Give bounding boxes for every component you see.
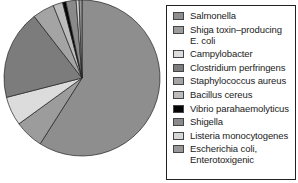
legend-swatch [173,132,184,140]
legend-swatch [173,77,184,85]
legend-item-campylobacter: Campylobacter [173,48,295,59]
legend-label: Listeria monocytogenes [190,130,288,141]
legend-label: Shiga toxin–producingE. coli [190,24,282,46]
legend-item-vibrio: Vibrio parahaemolyticus [173,103,295,114]
legend-swatch [173,145,184,153]
legend-item-staphylococcus: Staphylococcus aureus [173,75,295,86]
legend-label: Salmonella [190,10,236,21]
legend-item-etec: Escherichia coli,Enterotoxigenic [173,143,295,165]
chart-legend: Salmonella Shiga toxin–producingE. coli … [166,5,296,180]
legend-item-bacillus: Bacillus cereus [173,89,295,100]
legend-label: Vibrio parahaemolyticus [190,103,289,114]
legend-label-line1: Shiga toxin–producing [190,24,282,35]
legend-item-stec: Shiga toxin–producingE. coli [173,24,295,46]
legend-label-line2: E. coli [190,35,215,46]
legend-label: Bacillus cereus [190,89,252,100]
legend-item-clostridium: Clostridium perfringens [173,62,295,73]
legend-swatch [173,118,184,126]
legend-swatch [173,91,184,99]
legend-label-line2: Enterotoxigenic [190,154,254,165]
legend-label: Shigella [190,116,223,127]
legend-item-salmonella: Salmonella [173,10,295,21]
legend-label-line1: Escherichia coli, [190,143,257,154]
legend-label: Clostridium perfringens [190,62,285,73]
legend-label: Staphylococcus aureus [190,75,286,86]
legend-item-shigella: Shigella [173,116,295,127]
legend-swatch [173,105,184,113]
legend-swatch [173,50,184,58]
legend-swatch [173,64,184,72]
legend-item-listeria: Listeria monocytogenes [173,130,295,141]
legend-swatch [173,26,184,34]
legend-swatch [173,12,184,20]
legend-label: Escherichia coli,Enterotoxigenic [190,143,257,165]
pie-chart [0,0,166,170]
legend-label: Campylobacter [190,48,253,59]
